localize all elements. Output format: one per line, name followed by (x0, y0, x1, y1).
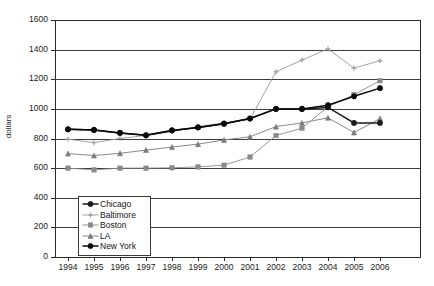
data-point (273, 106, 278, 111)
data-point (325, 103, 330, 108)
legend-item-new-york[interactable]: New York (82, 241, 146, 252)
y-tick-label: 600 (14, 162, 48, 172)
plot-area (0, 0, 434, 286)
legend-marker-icon (82, 210, 99, 220)
data-point (92, 168, 96, 172)
data-point (170, 166, 174, 170)
legend-item-boston[interactable]: Boston (82, 220, 146, 231)
data-point (91, 127, 96, 132)
legend-label: Chicago (99, 199, 131, 209)
data-point (88, 202, 93, 207)
y-tick-label: 400 (14, 192, 48, 202)
y-tick-label: 200 (14, 221, 48, 231)
data-point (351, 120, 356, 125)
data-point (378, 79, 382, 83)
data-point (88, 244, 93, 249)
legend-item-la[interactable]: LA (82, 231, 146, 242)
y-tick-label: 1000 (14, 103, 48, 113)
data-point (248, 155, 252, 159)
data-point (143, 133, 148, 138)
data-point (247, 116, 252, 121)
data-point (118, 166, 122, 170)
data-point (299, 106, 304, 111)
data-point (196, 165, 200, 169)
data-point (66, 166, 70, 170)
legend-label: Boston (99, 220, 126, 230)
y-tick-label: 1400 (14, 44, 48, 54)
y-tick-label: 1600 (14, 14, 48, 24)
x-tick-label: 2006 (363, 262, 397, 272)
data-point (144, 166, 148, 170)
legend-label: Baltimore (99, 210, 136, 220)
legend-marker-icon (82, 199, 99, 209)
legend: ChicagoBaltimoreBostonLANew York (78, 196, 151, 256)
line-chart: dollars 16001400120010008006004002000 19… (0, 0, 434, 286)
data-point (169, 128, 174, 133)
legend-label: New York (99, 241, 136, 251)
data-point (274, 133, 278, 137)
data-point (65, 127, 70, 132)
y-tick-label: 800 (14, 133, 48, 143)
y-axis-title: dollars (4, 97, 13, 157)
data-point (222, 163, 226, 167)
legend-marker-icon (82, 220, 99, 230)
data-point (351, 94, 356, 99)
data-point (221, 121, 226, 126)
data-point (300, 126, 304, 130)
legend-label: LA (99, 231, 110, 241)
data-point (377, 120, 382, 125)
y-tick-label: 1200 (14, 73, 48, 83)
y-tick-label: 0 (14, 251, 48, 261)
data-point (117, 130, 122, 135)
data-point (377, 86, 382, 91)
legend-item-chicago[interactable]: Chicago (82, 199, 146, 210)
legend-marker-icon (82, 241, 99, 251)
legend-item-baltimore[interactable]: Baltimore (82, 210, 146, 221)
data-point (88, 223, 92, 227)
data-point (195, 125, 200, 130)
legend-marker-icon (82, 231, 99, 241)
